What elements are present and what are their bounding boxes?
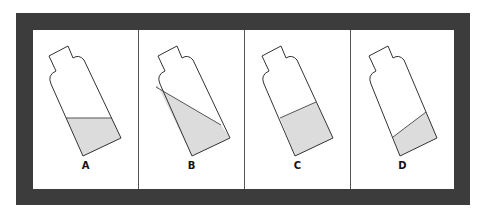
figure-frame: A B C D [16, 13, 470, 205]
panel-b: B [139, 30, 245, 189]
panel-label-c: C [245, 160, 350, 171]
panel-c: C [245, 30, 351, 189]
panel-label-a: A [33, 160, 138, 171]
panel-d: D [351, 30, 454, 189]
panel-label-b: B [139, 160, 244, 171]
figure-panels: A B C D [33, 30, 454, 189]
panel-label-d: D [351, 160, 454, 171]
panel-a: A [33, 30, 139, 189]
